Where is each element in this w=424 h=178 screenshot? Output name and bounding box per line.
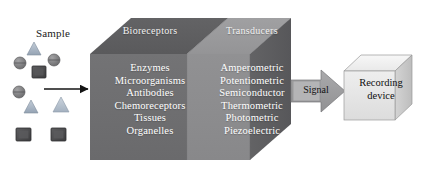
- particle-triangle: [24, 100, 38, 113]
- list-item: Amperometric: [196, 62, 308, 75]
- recording-device-label-line2: device: [350, 90, 412, 103]
- signal-label: Signal: [296, 84, 336, 95]
- particle-triangle: [27, 42, 41, 55]
- sample-particles: [13, 42, 69, 141]
- transducers-title: Transducers: [196, 25, 308, 36]
- particle-triangle: [53, 97, 69, 112]
- recording-device-label-line1: Recording: [350, 77, 412, 90]
- recording-device-label: Recording device: [350, 77, 412, 102]
- list-item: Organelles: [95, 125, 205, 138]
- figure-canvas: Sample Bioreceptors Transducers EnzymesM…: [0, 0, 424, 178]
- sample-label: Sample: [18, 27, 88, 39]
- particle-square-inner: [19, 131, 29, 139]
- list-item: Piezoelectric: [196, 125, 308, 138]
- bioreceptors-item-list: EnzymesMicroorganismsAntibodiesChemorece…: [95, 62, 205, 138]
- bioreceptors-title: Bioreceptors: [96, 25, 204, 36]
- list-item: Antibodies: [95, 87, 205, 100]
- particle-square-inner: [35, 69, 44, 76]
- list-item: Microorganisms: [95, 75, 205, 88]
- list-item: Semiconductor: [196, 87, 308, 100]
- transducers-item-list: AmperometricPotentiometricSemiconductorT…: [196, 62, 308, 138]
- list-item: Tissues: [95, 112, 205, 125]
- list-item: Potentiometric: [196, 75, 308, 88]
- particle-square-inner: [54, 131, 64, 139]
- list-item: Photometric: [196, 112, 308, 125]
- list-item: Chemoreceptors: [95, 100, 205, 113]
- list-item: Thermometric: [196, 100, 308, 113]
- list-item: Enzymes: [95, 62, 205, 75]
